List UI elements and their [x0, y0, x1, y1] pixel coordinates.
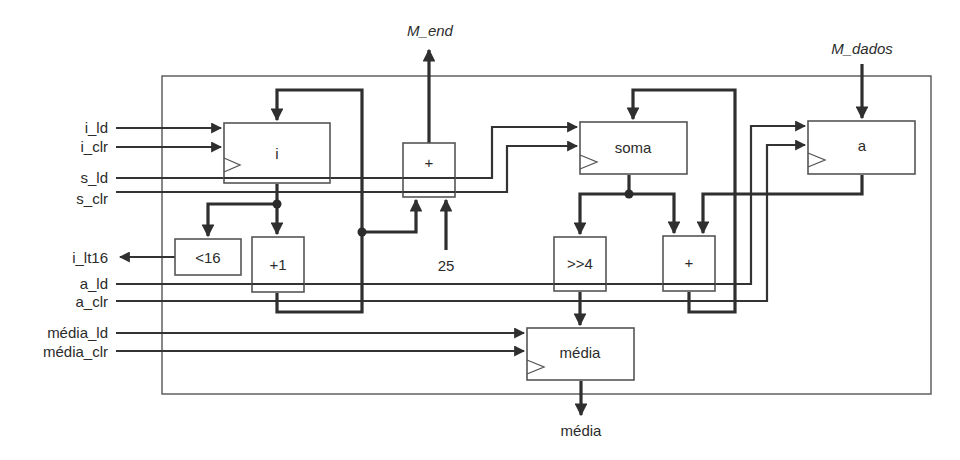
register-media: média: [527, 328, 634, 380]
label-i-ld: i_ld: [85, 119, 108, 136]
register-i-label: i: [275, 145, 278, 162]
bus-i-to-lt16: [208, 204, 277, 236]
shifter-label: >>4: [567, 255, 593, 272]
label-a-clr: a_clr: [75, 293, 108, 310]
bus-a-to-adder: [703, 175, 862, 233]
label-m-dados: M_dados: [831, 40, 893, 57]
register-soma-label: soma: [615, 139, 652, 156]
label-i-lt16: i_lt16: [72, 249, 108, 266]
label-media-ld: média_ld: [47, 324, 108, 341]
register-media-label: média: [560, 344, 602, 361]
address-adder-label: +: [425, 154, 434, 171]
label-s-clr: s_clr: [76, 190, 108, 207]
address-adder: +: [403, 143, 455, 197]
register-i: i: [224, 123, 330, 183]
bus-i-to-addr-adder: [362, 200, 416, 232]
incrementer-label: +1: [269, 256, 286, 273]
junction-i: [273, 200, 282, 209]
label-media-clr: média_clr: [43, 343, 108, 360]
sum-adder-label: +: [685, 254, 694, 271]
label-i-clr: i_clr: [80, 138, 108, 155]
register-a-label: a: [858, 137, 867, 154]
label-const-25: 25: [438, 257, 455, 274]
bus-soma-to-adder: [629, 194, 674, 233]
wire-s-clr: [116, 146, 577, 192]
junction-soma: [625, 190, 634, 199]
label-m-end: M_end: [407, 22, 454, 39]
label-s-ld: s_ld: [80, 169, 108, 186]
sum-adder: +: [663, 236, 715, 291]
register-soma: soma: [580, 122, 687, 174]
register-a: a: [808, 121, 915, 174]
comparator-lt16: <16: [175, 239, 241, 275]
label-media-out: média: [561, 422, 603, 439]
bus-soma-to-shift: [580, 194, 629, 234]
junction-feedback: [358, 228, 367, 237]
comparator-label: <16: [195, 249, 220, 266]
datapath-diagram: i + soma a <16 +1 >>4 +: [0, 0, 960, 460]
label-a-ld: a_ld: [80, 275, 108, 292]
